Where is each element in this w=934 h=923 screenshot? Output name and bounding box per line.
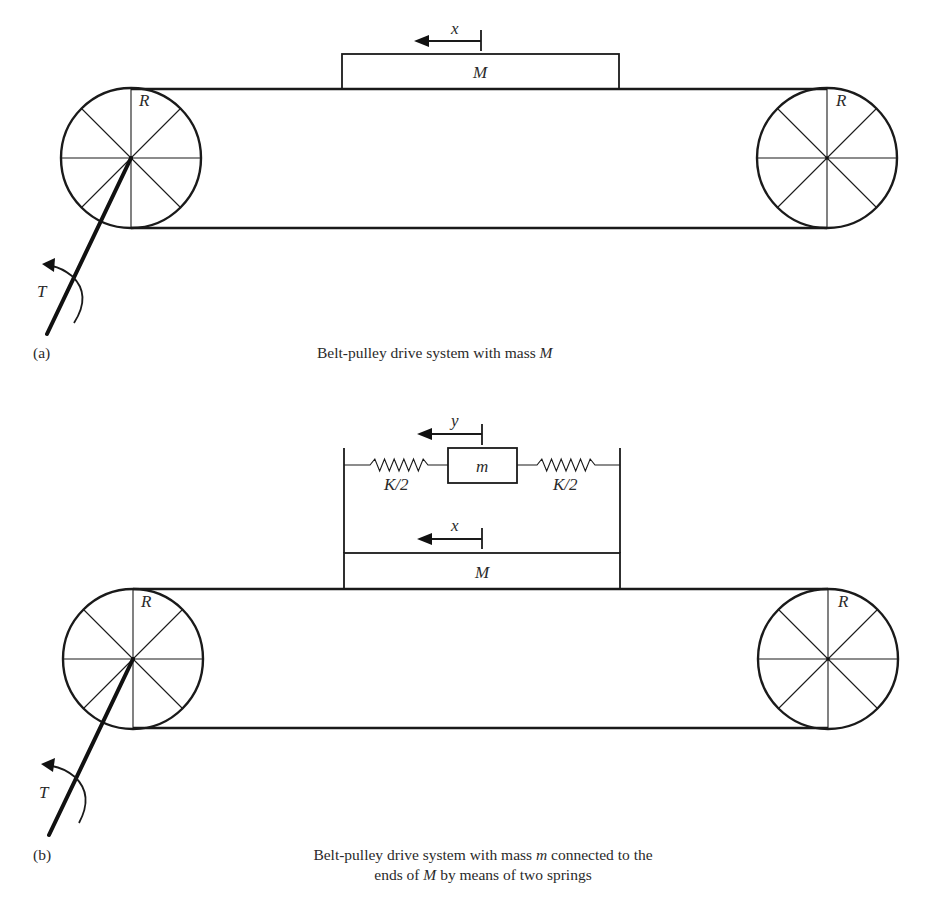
displacement-label-x: x — [450, 516, 459, 535]
belt-pulley-figure: R R M x (a) Belt-pulley drive system wit… — [0, 0, 934, 923]
zigzag-spring-icon — [344, 459, 448, 471]
mass-M-b: M — [344, 553, 620, 589]
panel-b: R R M x m y — [33, 411, 898, 883]
drive-shaft-b: T — [39, 659, 133, 835]
caption-b-symbol: m — [536, 846, 547, 863]
spring-right-label: K/2 — [552, 475, 578, 494]
belt-a — [131, 89, 827, 228]
panel-tag-b: (b) — [33, 846, 51, 864]
mass-m-b: m — [448, 448, 517, 483]
pulley-hub — [825, 156, 829, 160]
mass-label: M — [472, 63, 488, 82]
torque-label: T — [39, 783, 50, 802]
caption-b-line2: ends of M by means of two springs — [374, 866, 591, 883]
caption-a: Belt-pulley drive system with mass M — [317, 344, 554, 361]
spring-left: K/2 — [344, 459, 448, 494]
shaft — [49, 659, 133, 835]
shaft — [47, 158, 131, 334]
displacement-label-y: y — [449, 411, 459, 430]
caption-b-line1: Belt-pulley drive system with mass m con… — [313, 846, 652, 863]
left-arrow-icon — [417, 533, 432, 545]
drive-shaft-a: T — [37, 158, 131, 334]
mass-M-a: M — [342, 54, 619, 89]
caption-b-text: Belt-pulley drive system with mass — [313, 846, 536, 863]
panel-a: R R M x (a) Belt-pulley drive system wit… — [33, 19, 897, 362]
left-arrow-icon — [414, 35, 429, 47]
displacement-arrow-x-a: x — [414, 19, 481, 51]
mass-label: M — [474, 563, 490, 582]
caption-b-symbol: M — [422, 866, 437, 883]
spring-left-label: K/2 — [383, 475, 409, 494]
caption-b-text: by means of two springs — [436, 866, 591, 883]
caption-b-text: ends of — [374, 866, 423, 883]
displacement-arrow-x-b: x — [417, 516, 482, 549]
radius-label-left: R — [140, 592, 152, 611]
pulley-right-a — [757, 88, 897, 228]
radius-label-right: R — [835, 91, 847, 110]
caption-a-text: Belt-pulley drive system with mass — [317, 344, 540, 361]
counterclockwise-arrow-icon — [41, 758, 55, 772]
displacement-label-x: x — [450, 19, 459, 38]
pulley-hub — [826, 657, 830, 661]
counterclockwise-arrow-icon — [42, 258, 55, 272]
caption-b-text: connected to the — [547, 846, 653, 863]
displacement-arrow-y-b: y — [417, 411, 482, 445]
torque-label: T — [37, 282, 48, 301]
left-arrow-icon — [417, 428, 432, 440]
caption-a-symbol: M — [539, 344, 554, 361]
spring-right: K/2 — [517, 459, 620, 494]
small-mass-label: m — [476, 457, 488, 476]
radius-label-right: R — [837, 592, 849, 611]
belt-b — [133, 589, 828, 728]
panel-tag-a: (a) — [33, 344, 50, 362]
zigzag-spring-icon — [517, 459, 620, 471]
pulley-right-b — [758, 589, 898, 729]
radius-label-left: R — [138, 91, 150, 110]
